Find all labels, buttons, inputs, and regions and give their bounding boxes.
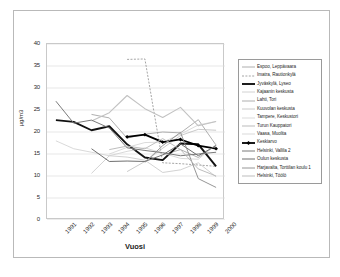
legend-swatch: [241, 63, 256, 71]
x-axis-tick: 1996: [153, 221, 167, 235]
legend-item: Harjavalta, Torttilan koulu 1: [241, 164, 319, 172]
x-axis-title: Vuosi: [46, 242, 224, 251]
legend-item: Turun Kauppatori: [241, 122, 319, 130]
legend-swatch: [241, 164, 256, 172]
legend-item: Lahti, Tori: [241, 97, 319, 105]
legend-item: Helsinki, Vallila 2: [241, 147, 319, 155]
legend-label: Kuuvolan keskusta: [256, 107, 295, 112]
legend-swatch: [241, 139, 256, 147]
legend-label: Turun Kauppatori: [256, 124, 292, 129]
legend-swatch: [241, 155, 256, 163]
y-axis-tick: 35: [34, 62, 40, 68]
legend-label: Helsinki, Töölö: [256, 174, 286, 179]
series-line: [127, 135, 216, 149]
y-axis-tick: 40: [34, 40, 40, 46]
x-axis-tick: 1991: [64, 221, 78, 235]
legend-label: Oulun keskusta: [256, 157, 288, 162]
legend-item: Vaasa, Muolita: [241, 130, 319, 138]
plot-area: [46, 43, 224, 219]
series-line: [92, 95, 217, 125]
legend-item: Espoo, Leppävaara: [241, 63, 319, 71]
legend-swatch: [241, 147, 256, 155]
y-axis-tick: 25: [34, 106, 40, 112]
x-axis-tick: 1994: [117, 221, 131, 235]
legend-label: Imatra, Rautionkylä: [256, 73, 296, 78]
legend-item: Kajaanin keskusta: [241, 88, 319, 96]
legend-swatch: [241, 130, 256, 138]
legend-swatch: [241, 88, 256, 96]
x-axis-tick: 2000: [224, 221, 238, 235]
legend-label: Harjavalta, Torttilan koulu 1: [256, 166, 311, 171]
x-axis-tick: 1998: [188, 221, 202, 235]
legend-item: Keskiarvo: [241, 139, 319, 147]
x-axis-tick: 1995: [135, 221, 149, 235]
y-axis-tick: 15: [34, 150, 40, 156]
y-axis-tick-labels: 0510152025303540: [14, 43, 44, 219]
legend-swatch: [241, 97, 256, 105]
legend-swatch: [241, 105, 256, 113]
legend-item: Imatra, Rautionkylä: [241, 71, 319, 79]
x-axis-tick: 1993: [99, 221, 113, 235]
legend-item: Kuuvolan keskusta: [241, 105, 319, 113]
x-axis-tick: 1997: [171, 221, 185, 235]
legend-label: Kajaanin keskusta: [256, 90, 293, 95]
series-line: [109, 121, 216, 154]
legend-item: Tampere, Keskustori: [241, 113, 319, 121]
legend-item: Jyväskylä, Lyseo: [241, 80, 319, 88]
y-axis-tick: 0: [37, 216, 40, 222]
legend-label: Keskiarvo: [256, 140, 277, 145]
legend-item: Helsinki, Töölö: [241, 172, 319, 180]
legend-label: Espoo, Leppävaara: [256, 65, 296, 70]
y-axis-tick: 5: [37, 194, 40, 200]
y-axis-tick: 10: [34, 172, 40, 178]
legend-swatch: [241, 114, 256, 122]
legend-item: Oulun keskusta: [241, 155, 319, 163]
legend-swatch: [241, 80, 256, 88]
legend: Espoo, LeppävaaraImatra, RautionkyläJyvä…: [238, 59, 322, 184]
legend-label: Lahti, Tori: [256, 98, 276, 103]
legend-label: Vaasa, Muolita: [256, 132, 286, 137]
legend-swatch: [241, 72, 256, 80]
legend-swatch: [241, 122, 256, 130]
x-axis-tick: 1999: [206, 221, 220, 235]
y-axis-tick: 30: [34, 84, 40, 90]
legend-swatch: [241, 172, 256, 180]
series-lines: [47, 44, 225, 220]
legend-label: Helsinki, Vallila 2: [256, 149, 290, 154]
legend-label: Tampere, Keskustori: [256, 115, 298, 120]
legend-label: Jyväskylä, Lyseo: [256, 82, 291, 87]
series-marker: [214, 147, 218, 151]
y-axis-tick: 20: [34, 128, 40, 134]
x-axis-tick: 1992: [82, 221, 96, 235]
chart-figure: µg/m3 0510152025303540 19911992199319941…: [13, 10, 330, 258]
